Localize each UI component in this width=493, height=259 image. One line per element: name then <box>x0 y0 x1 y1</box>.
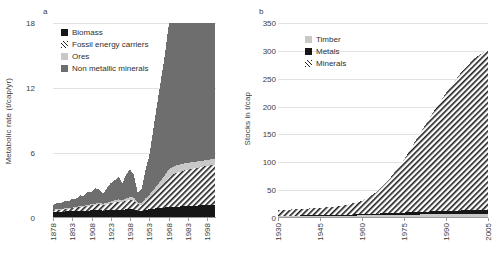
panel-a-xtick-1953: 1953 <box>145 223 154 241</box>
panel-b-xtick-mark-1960 <box>362 218 363 221</box>
panel-b-ytick-300: 300 <box>246 46 276 55</box>
panel-a-xtick-1998: 1998 <box>203 223 212 241</box>
panel-a-xtick-mark-1953 <box>149 218 150 221</box>
panel-a-ytick-0: 0 <box>0 214 35 223</box>
panel-a-legend: Biomass Fossil energy carriers Ores Non … <box>61 27 148 75</box>
legend-label-timber: Timber <box>316 35 341 44</box>
panel-b-xtick-1990: 1990 <box>442 223 451 241</box>
panel-b-x-axis <box>278 217 488 218</box>
panel-b-xtick-1945: 1945 <box>316 223 325 241</box>
black-square-icon <box>305 48 312 55</box>
panel-b-ytick-250: 250 <box>246 74 276 83</box>
legend-label-ores: Ores <box>72 52 89 61</box>
black-square-icon <box>61 29 68 36</box>
legend-label-non-metallic-minerals: Non metallic minerals <box>72 64 148 73</box>
panel-a-xtick-1878: 1878 <box>49 223 58 241</box>
panel-b-xtick-2005: 2005 <box>484 223 493 241</box>
dark-gray-square-icon <box>61 65 68 72</box>
panel-a-xtick-1968: 1968 <box>165 223 174 241</box>
legend-label-metals: Metals <box>316 47 340 56</box>
panel-a-ytick-6: 6 <box>0 149 35 158</box>
panel-a-xtick-mark-1908 <box>92 218 93 221</box>
panel-b: b Stocks in t/cap 050100150200250300350 … <box>240 0 490 259</box>
legend-item-non-metallic-minerals[interactable]: Non metallic minerals <box>61 63 148 74</box>
panel-b-xtick-1960: 1960 <box>358 223 367 241</box>
panel-b-xtick-1930: 1930 <box>274 223 283 241</box>
panel-b-ytick-200: 200 <box>246 102 276 111</box>
panel-b-xtick-mark-1990 <box>446 218 447 221</box>
panel-b-xtick-mark-1930 <box>278 218 279 221</box>
panel-a-xtick-1938: 1938 <box>126 223 135 241</box>
panel-b-xtick-1975: 1975 <box>400 223 409 241</box>
light-gray-square-icon <box>305 36 312 43</box>
panel-a-xtick-1893: 1893 <box>68 223 77 241</box>
panel-b-ytick-50: 50 <box>246 186 276 195</box>
panel-a-xtick-mark-1923 <box>111 218 112 221</box>
panel-b-ytick-150: 150 <box>246 130 276 139</box>
panel-b-xtick-mark-1945 <box>320 218 321 221</box>
panel-b-legend: Timber Metals Minerals <box>305 34 346 70</box>
legend-label-fossil-energy-carriers: Fossil energy carriers <box>72 40 148 49</box>
panel-b-xtick-mark-2005 <box>488 218 489 221</box>
panel-a-xtick-mark-1983 <box>188 218 189 221</box>
panel-b-ytick-0: 0 <box>246 214 276 223</box>
panel-a-xtick-1983: 1983 <box>184 223 193 241</box>
panel-b-xtick-mark-1975 <box>404 218 405 221</box>
panel-a-xtick-mark-1968 <box>169 218 170 221</box>
panel-a-x-axis <box>53 217 216 218</box>
legend-item-timber[interactable]: Timber <box>305 34 346 45</box>
panel-a-xtick-mark-1893 <box>72 218 73 221</box>
panel-b-ytick-100: 100 <box>246 158 276 167</box>
panel-a-xtick-mark-1998 <box>207 218 208 221</box>
panel-a-xtick-mark-1878 <box>53 218 54 221</box>
panel-b-ytick-350: 350 <box>246 19 276 28</box>
panel-a-label: a <box>43 7 47 16</box>
panel-a-ytick-12: 12 <box>0 84 35 93</box>
hatched-square-icon <box>61 41 68 48</box>
legend-label-biomass: Biomass <box>72 28 103 37</box>
panel-a-xtick-mark-1938 <box>130 218 131 221</box>
legend-label-minerals: Minerals <box>316 59 346 68</box>
panel-a-xtick-1923: 1923 <box>107 223 116 241</box>
legend-item-ores[interactable]: Ores <box>61 51 148 62</box>
series-minerals <box>278 49 488 215</box>
light-gray-square-icon <box>61 53 68 60</box>
panel-b-label: b <box>259 7 263 16</box>
legend-item-metals[interactable]: Metals <box>305 46 346 57</box>
legend-item-minerals[interactable]: Minerals <box>305 58 346 69</box>
panel-a: a Metabolic rate (t/cap/yr) 18 12 6 0 Bi… <box>0 0 240 259</box>
panel-a-ytick-18: 18 <box>0 19 35 28</box>
legend-item-biomass[interactable]: Biomass <box>61 27 148 38</box>
legend-item-fossil-energy-carriers[interactable]: Fossil energy carriers <box>61 39 148 50</box>
hatched-square-icon <box>305 60 312 67</box>
panel-a-xtick-1908: 1908 <box>88 223 97 241</box>
